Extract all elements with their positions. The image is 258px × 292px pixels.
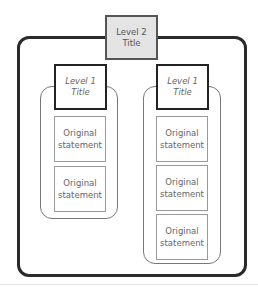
level1-title: Level 1 Title: [167, 76, 198, 98]
statement-text: Original statement: [58, 127, 102, 151]
statement-box: Original statement: [156, 116, 208, 162]
statement-box: Original statement: [156, 165, 208, 211]
statement-box: Original statement: [54, 116, 106, 162]
statement-text: Original statement: [160, 127, 204, 151]
statement-text: Original statement: [160, 225, 204, 249]
level1-title-box-left: Level 1 Title: [54, 64, 107, 110]
level2-title: Level 2 Title: [116, 27, 147, 49]
level1-title-box-right: Level 1 Title: [156, 64, 209, 110]
divider: [0, 284, 258, 285]
statement-text: Original statement: [58, 177, 102, 201]
level2-title-box: Level 2 Title: [105, 15, 158, 60]
level1-title: Level 1 Title: [65, 76, 96, 98]
statement-box: Original statement: [156, 214, 208, 260]
statement-text: Original statement: [160, 176, 204, 200]
statement-box: Original statement: [54, 166, 106, 212]
